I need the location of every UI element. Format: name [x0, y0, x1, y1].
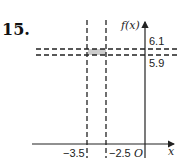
graph: f(x) x 6.1 5.9 −3.5 −2.5 O [0, 0, 185, 168]
label-5.9: 5.9 [149, 57, 164, 69]
label-6.1: 6.1 [149, 35, 164, 47]
x-axis-label: x [168, 145, 175, 158]
shaded-region [88, 49, 106, 55]
origin-label: O [134, 147, 143, 160]
label-neg3.5: −3.5 [63, 147, 85, 159]
y-axis-label: f(x) [120, 19, 140, 32]
label-neg2.5: −2.5 [109, 147, 131, 159]
